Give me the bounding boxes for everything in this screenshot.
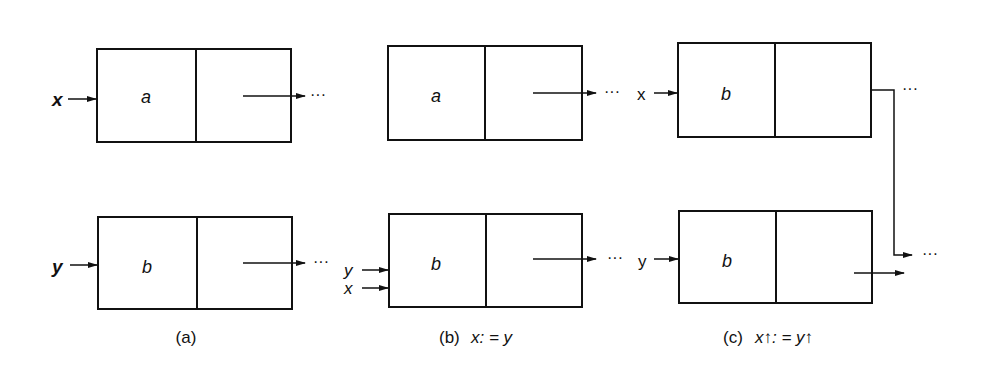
- caption-c-label: (c): [723, 328, 743, 347]
- node-c-top: b x ··· ···: [637, 43, 938, 262]
- ellipsis: ···: [607, 249, 623, 266]
- node-value: a: [431, 86, 441, 106]
- node-c-bottom: b y: [638, 211, 904, 303]
- ellipsis: ···: [902, 80, 918, 97]
- caption-b-statement: x: = y: [470, 328, 514, 347]
- panel-c: b x ··· ··· b y (c) x↑: = y↑: [637, 43, 938, 347]
- node-value: b: [142, 257, 152, 277]
- caption-c-statement: x↑: = y↑: [754, 328, 813, 347]
- panel-b: a ··· b ··· y x (b) x: = y: [343, 46, 623, 347]
- caption-a: (a): [176, 328, 197, 347]
- node-value: b: [431, 254, 441, 274]
- ellipsis: ···: [310, 86, 326, 103]
- pointer-label-x: x: [343, 279, 353, 298]
- pointer-assignment-diagram: a ··· x b ··· y (a) a ··· b: [0, 0, 991, 382]
- caption-b: (b) x: = y: [439, 328, 514, 347]
- node-value: b: [722, 251, 732, 271]
- node-a-top: a ··· x: [51, 49, 326, 142]
- node-b-bottom: b ··· y x: [343, 214, 623, 307]
- pointer-label-y: y: [638, 252, 647, 271]
- pointer-label-y: y: [343, 261, 354, 280]
- node-b-top: a ···: [388, 46, 620, 140]
- node-value: a: [141, 87, 151, 107]
- pointer-label-x: x: [637, 85, 646, 104]
- panel-a: a ··· x b ··· y (a): [51, 49, 329, 347]
- ellipsis: ···: [922, 245, 938, 262]
- caption-b-label: (b): [439, 328, 460, 347]
- ellipsis: ···: [313, 253, 329, 270]
- redirected-pointer-arrow: [871, 90, 912, 255]
- node-value: b: [721, 84, 731, 104]
- ellipsis: ···: [604, 83, 620, 100]
- pointer-label-y: y: [51, 256, 64, 277]
- node-a-bottom: b ··· y: [51, 217, 329, 309]
- caption-c: (c) x↑: = y↑: [723, 328, 813, 347]
- pointer-label-x: x: [51, 89, 64, 110]
